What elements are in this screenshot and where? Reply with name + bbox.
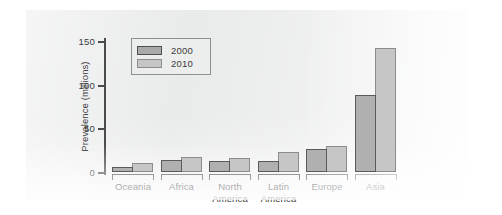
bar-group [355,41,397,172]
category-latin-america: LatinAmerica [253,174,305,204]
x-axis-categories: OceaniaAfricaNorthAmericaLatinAmericaEur… [104,174,404,214]
bar-2000-oceania [112,167,133,172]
legend-swatch-2010 [137,59,162,68]
category-bracket [161,174,203,180]
category-label: Latin [253,181,305,192]
legend-item-2000: 2000 [137,44,205,56]
category-label: Europe [301,181,353,192]
category-africa: Africa [156,174,208,192]
category-bracket [258,174,300,180]
bar-2010-europe [326,146,347,172]
bar-2000-africa [161,160,182,172]
legend-label-2010: 2010 [171,58,193,69]
chart-legend: 20002010 [131,38,211,75]
category-europe: Europe [301,174,353,192]
legend-label-2000: 2000 [171,45,193,56]
bar-2010-north-america [229,158,250,172]
legend-item-2010: 2010 [137,57,205,69]
bar-2000-north-america [209,161,230,172]
category-north-america: NorthAmerica [204,174,256,204]
legend-swatch-2000 [137,46,162,55]
y-axis-title: Prevalence (millions) [78,41,92,172]
category-label: America [204,193,256,204]
bar-2000-asia [355,95,376,172]
bar-2000-latin-america [258,161,279,172]
bar-2010-oceania [132,163,153,172]
category-bracket [355,174,397,180]
category-label: Asia [350,181,402,192]
bar-2010-latin-america [278,152,299,172]
category-bracket [209,174,251,180]
category-label: Africa [156,181,208,192]
bar-2010-asia [375,48,396,172]
category-asia: Asia [350,174,402,192]
category-oceania: Oceania [107,174,159,192]
bar-2000-europe [306,149,327,172]
category-bracket [306,174,348,180]
category-label: Oceania [107,181,159,192]
bar-group [209,41,251,172]
bar-2010-africa [181,157,202,172]
bar-group [306,41,348,172]
category-label: North [204,181,256,192]
figure-root: 050100150 Prevalence (millions) OceaniaA… [0,0,502,215]
category-bracket [112,174,154,180]
bar-group [258,41,300,172]
category-label: America [253,193,305,204]
